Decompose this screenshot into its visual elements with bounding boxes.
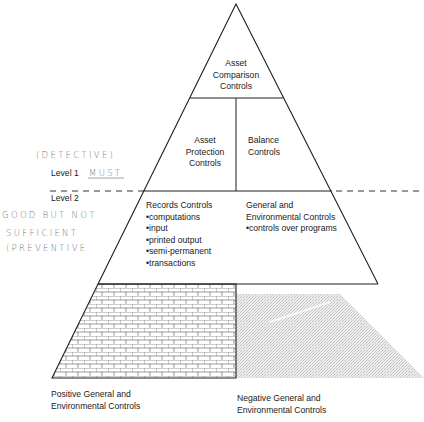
list-item: printed output: [146, 235, 212, 247]
must-annotation: MUST: [89, 168, 122, 178]
label-line: General and: [246, 200, 337, 212]
label-line: Comparison: [206, 70, 266, 82]
label-line: Positive General and: [51, 389, 140, 401]
label-line: Environmental Controls: [246, 212, 337, 224]
records-controls-title: Records Controls: [146, 200, 212, 212]
detective-annotation: (DETECTIVE): [36, 150, 115, 160]
asset-protection-controls-label: Asset Protection Controls: [180, 135, 230, 170]
records-controls-block: Records Controls computations input prin…: [146, 200, 212, 269]
balance-controls-label: Balance Controls: [248, 135, 280, 158]
positive-controls-region: [52, 284, 236, 378]
records-controls-list: computations input printed output semi-p…: [146, 212, 212, 270]
negative-controls-region: [236, 294, 424, 378]
label-line: Environmental Controls: [237, 405, 326, 417]
pyramid-diagram: Asset Comparison Controls Asset Protecti…: [0, 0, 424, 422]
general-controls-list: controls over programs: [246, 223, 337, 235]
label-line: Environmental Controls: [51, 401, 140, 413]
label-line: Asset: [206, 58, 266, 70]
positive-controls-caption: Positive General and Environmental Contr…: [51, 389, 140, 412]
negative-controls-caption: Negative General and Environmental Contr…: [237, 393, 326, 416]
asset-comparison-controls-label: Asset Comparison Controls: [206, 58, 266, 93]
list-item: transactions: [146, 258, 212, 270]
label-line: Negative General and: [237, 393, 326, 405]
preventive-annotation: (PREVENTIVE: [6, 243, 87, 253]
list-item: input: [146, 223, 212, 235]
list-item: computations: [146, 212, 212, 224]
label-line: Protection: [180, 147, 230, 159]
good-but-not-annotation: GOOD BUT NOT: [2, 210, 97, 220]
level-1-label: Level 1: [51, 168, 79, 180]
label-line: Controls: [206, 81, 266, 93]
label-line: Controls: [248, 147, 280, 159]
label-line: Balance: [248, 135, 280, 147]
sufficient-annotation: SUFFICIENT: [6, 228, 78, 238]
label-line: Asset: [180, 135, 230, 147]
label-line: Controls: [180, 158, 230, 170]
list-item: controls over programs: [246, 223, 337, 235]
general-environmental-controls-block: General and Environmental Controls contr…: [246, 200, 337, 235]
level-2-label: Level 2: [51, 193, 79, 205]
list-item: semi-permanent: [146, 246, 212, 258]
